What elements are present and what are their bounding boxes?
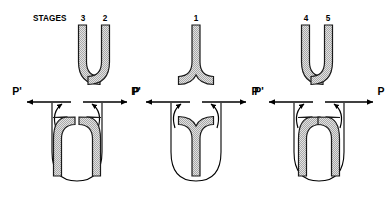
stage-label-3: 3 — [81, 14, 86, 23]
panel-2: 1 P' P — [131, 14, 258, 181]
panel-1: STAGES 3 2 P' P — [12, 14, 139, 181]
stages-diagram: STAGES 3 2 P' P — [0, 0, 392, 199]
stages-caption: STAGES — [33, 14, 67, 23]
lower-tube-left — [298, 117, 320, 176]
upper-y-tube — [179, 25, 214, 85]
stage-label-2: 2 — [103, 14, 108, 23]
diagram-canvas: STAGES 3 2 P' P — [0, 0, 392, 199]
lower-tube-left — [53, 117, 75, 176]
upper-tube-right — [311, 25, 333, 85]
lower-tube-right — [318, 117, 340, 176]
axis-label-left: P' — [12, 85, 22, 97]
stage-label-5: 5 — [326, 14, 331, 23]
stage-label-4: 4 — [304, 14, 309, 23]
stage-label-1: 1 — [194, 14, 199, 23]
panel-3: 4 5 P' P — [254, 14, 384, 181]
axis-label-left: P' — [131, 85, 141, 97]
axis-label-right: P — [377, 85, 384, 97]
upper-tube-right — [88, 25, 110, 85]
lower-inverted-y-tube — [179, 117, 214, 177]
lower-tube-right — [79, 117, 101, 176]
axis-label-left: P' — [254, 85, 264, 97]
